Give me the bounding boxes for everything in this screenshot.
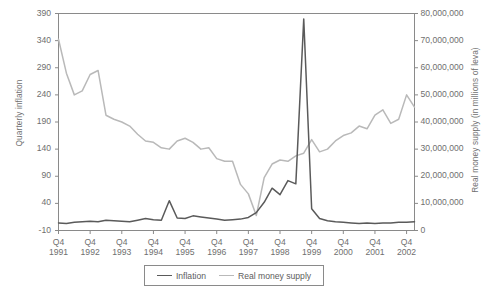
legend-label: Real money supply: [238, 271, 311, 281]
x-tick-year: 2002: [387, 247, 427, 258]
series-line-inflation: [59, 19, 415, 224]
y-axis-right-tick-label: 0: [421, 225, 426, 235]
legend-item[interactable]: Inflation: [157, 271, 206, 281]
x-axis-tick-label: Q42002: [387, 237, 427, 258]
legend-line-swatch: [219, 275, 234, 276]
y-axis-left-tick-label: -10: [14, 225, 51, 235]
y-axis-left-tick-label: 240: [14, 89, 51, 99]
x-tick-quarter: Q4: [387, 237, 427, 248]
y-axis-left-tick-label: 290: [14, 62, 51, 72]
y-axis-left-tick-label: 90: [14, 170, 51, 180]
y-axis-right-tick-label: 50,000,000: [421, 89, 464, 99]
plot-frame: [59, 14, 415, 231]
chart-figure: Quarterly inflation Real money supply (i…: [0, 0, 483, 290]
y-axis-left-tick-label: 340: [14, 35, 51, 45]
y-axis-left-tick-label: 40: [14, 197, 51, 207]
legend-label: Inflation: [176, 271, 206, 281]
y-axis-right-tick-label: 80,000,000: [421, 8, 464, 18]
y-axis-right-tick-label: 60,000,000: [421, 62, 464, 72]
y-axis-left-tick-label: 140: [14, 143, 51, 153]
y-axis-left-tick-label: 390: [14, 8, 51, 18]
y-axis-right-tick-label: 40,000,000: [421, 116, 464, 126]
legend-line-swatch: [157, 275, 172, 276]
y-axis-right-tick-label: 10,000,000: [421, 197, 464, 207]
series-line-real-money-supply: [59, 39, 415, 215]
y-axis-right-tick-label: 70,000,000: [421, 35, 464, 45]
legend-item[interactable]: Real money supply: [219, 271, 311, 281]
y-axis-left-tick-label: 190: [14, 116, 51, 126]
y-axis-right-tick-label: 20,000,000: [421, 170, 464, 180]
y-axis-right-tick-label: 30,000,000: [421, 143, 464, 153]
chart-legend: InflationReal money supply: [144, 265, 324, 286]
